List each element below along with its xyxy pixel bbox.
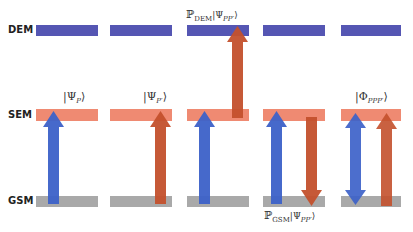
arrow-up-blue-3: [194, 111, 215, 204]
arrow-up-red-5: [376, 113, 397, 206]
arrow-up-red-2: [150, 111, 171, 204]
arrow-up-red-3: [227, 26, 248, 118]
arrow-up-blue-4: [266, 111, 287, 204]
arrow-down-red-4: [301, 117, 322, 206]
transition-arrows: [0, 0, 413, 232]
state-label-psi-p: |ΨP⟩: [63, 90, 85, 105]
projection-label-dem: ℙDEM|ΨPP′⟩: [186, 8, 238, 23]
arrow-up-blue-1: [43, 111, 64, 204]
projection-label-gsm: ℙGSM|ΨPP′⟩: [264, 209, 315, 224]
state-label-phi-ppp: |ΦPPP′⟩: [355, 90, 388, 105]
state-label-psi-pprime: |ΨP′⟩: [143, 90, 167, 105]
arrow-double-blue-5: [345, 113, 366, 205]
